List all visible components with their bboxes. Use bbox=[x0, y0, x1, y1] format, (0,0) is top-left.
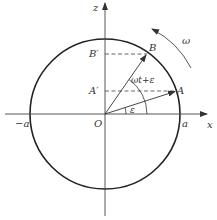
neg-a-label: −a bbox=[15, 118, 29, 129]
point-b-prime-label: B′ bbox=[88, 48, 99, 59]
point-b-label: B bbox=[148, 42, 156, 53]
pos-a-label: a bbox=[182, 118, 188, 129]
rotation-omega-label: ω bbox=[182, 35, 190, 46]
vector-oa bbox=[105, 92, 175, 115]
z-axis-label: z bbox=[92, 2, 99, 13]
x-axis-label: x bbox=[207, 119, 213, 130]
origin-label: O bbox=[94, 118, 102, 129]
angle-omega-t-plus-epsilon-label: ωt+ε bbox=[131, 75, 154, 85]
angle-epsilon-label: ε bbox=[130, 105, 135, 115]
point-a-prime-label: A′ bbox=[88, 85, 99, 96]
rotating-vector-diagram: z x O −a a B B′ A A′ ε ωt+ε ω bbox=[0, 0, 217, 220]
angle-arc-epsilon bbox=[125, 108, 126, 115]
point-a-label: A bbox=[176, 85, 184, 96]
